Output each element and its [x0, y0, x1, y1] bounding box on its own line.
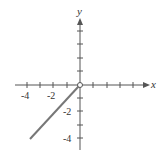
x-tick-label: -2 [47, 90, 55, 101]
y-tick-label: -2 [63, 106, 71, 117]
graph: -4 -2 -2 -4 x y [0, 0, 165, 155]
open-circle-marker [78, 83, 83, 88]
y-tick-label: -4 [63, 133, 71, 144]
x-tick-label: -4 [21, 90, 29, 101]
y-axis-arrow-icon [77, 18, 83, 25]
x-axis-arrow-icon [143, 82, 150, 88]
x-axis-label: x [150, 78, 156, 90]
y-axis-label: y [76, 5, 82, 17]
